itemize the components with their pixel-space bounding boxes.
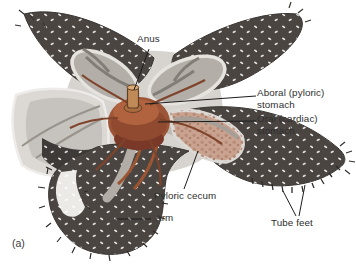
- label-aboral-stomach: Aboral (pyloric) stomach: [257, 87, 324, 110]
- label-arm: Arm: [155, 212, 173, 224]
- label-pyloric-cecum: Pyloric cecum: [154, 190, 216, 202]
- leader-tube-feet-1: [283, 191, 296, 216]
- label-anus: Anus: [137, 33, 160, 45]
- anus-opening: [127, 85, 139, 90]
- label-oral-stomach: Oral (cardiac) stomach: [257, 113, 318, 136]
- figure-panel: Anus Aboral (pyloric) stomach Oral (card…: [0, 0, 356, 266]
- label-tube-feet: Tube feet: [271, 217, 313, 229]
- panel-letter: (a): [12, 237, 25, 249]
